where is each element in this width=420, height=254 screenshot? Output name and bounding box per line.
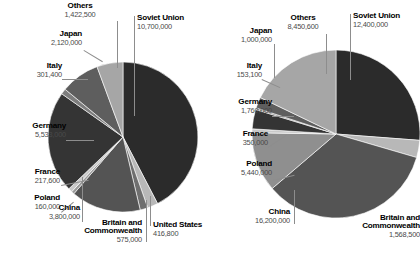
right-label-france: France 350,000 xyxy=(210,130,268,146)
right-label-japan-name: Japan xyxy=(210,27,272,35)
left-label-france-name: France xyxy=(4,168,60,176)
right-label-soviet-union: Soviet Union 12,400,000 xyxy=(353,12,400,28)
left-label-united-states: United States 416,800 xyxy=(153,221,202,237)
right-label-china: China 16,200,000 xyxy=(228,208,290,224)
right-label-britain: Britain and Commonwealth 1,568,500 xyxy=(342,214,420,239)
left-label-others-name: Others xyxy=(45,2,115,10)
right-pie-chart xyxy=(252,50,420,218)
right-pie-chart-panel: Others 8,450,600 Soviet Union 12,400,000… xyxy=(210,0,420,254)
left-label-britain: Britain and Commonwealth 575,000 xyxy=(78,219,142,244)
right-label-germany-name: Germany xyxy=(210,98,272,106)
left-leader-soviet-union xyxy=(134,16,135,116)
right-label-china-name: China xyxy=(228,208,290,216)
right-label-italy-value: 153,100 xyxy=(210,71,262,79)
right-label-others-value: 8,450,600 xyxy=(272,23,334,31)
left-label-united-states-name: United States xyxy=(153,221,202,229)
left-leader-britain xyxy=(146,200,147,242)
left-label-others-value: 1,422,500 xyxy=(45,11,115,19)
right-leader-germany xyxy=(272,116,294,117)
left-label-soviet-union-name: Soviet Union xyxy=(137,14,184,22)
left-leader-united-states xyxy=(150,196,151,226)
right-leader-japan xyxy=(274,44,275,78)
pie-slice-soviet-union xyxy=(336,50,420,140)
left-label-poland-name: Poland xyxy=(2,194,60,202)
right-label-japan: Japan 1,000,000 xyxy=(210,27,272,43)
right-label-china-value: 16,200,000 xyxy=(228,217,290,225)
right-label-france-name: France xyxy=(210,130,268,138)
left-pie-svg xyxy=(48,62,198,212)
right-label-poland: Poland 5,440,000 xyxy=(210,160,272,176)
left-leader-others xyxy=(117,21,118,68)
right-label-italy-name: Italy xyxy=(210,62,262,70)
left-label-china: China 3,800,000 xyxy=(18,204,80,220)
left-label-others: Others 1,422,500 xyxy=(45,2,115,18)
right-label-soviet-union-name: Soviet Union xyxy=(353,12,400,20)
right-label-germany-value: 1,760,000 xyxy=(210,107,272,115)
left-label-germany: Germany 5,533,000 xyxy=(0,122,66,138)
left-label-japan-name: Japan xyxy=(14,30,82,38)
right-label-britain-value: 1,568,500 xyxy=(342,231,420,239)
right-label-france-value: 350,000 xyxy=(210,139,268,147)
left-label-france: France 217,600 xyxy=(4,168,60,184)
left-leader-italy xyxy=(62,79,88,80)
left-label-italy-value: 301,400 xyxy=(2,71,62,79)
left-pie-chart xyxy=(48,62,198,212)
left-label-japan: Japan 2,120,000 xyxy=(14,30,82,46)
right-label-germany: Germany 1,760,000 xyxy=(210,98,272,114)
left-leader-japan xyxy=(83,50,102,62)
right-label-soviet-union-value: 12,400,000 xyxy=(353,21,400,29)
right-label-japan-value: 1,000,000 xyxy=(210,36,272,44)
right-leader-china xyxy=(294,190,295,224)
right-label-poland-value: 5,440,000 xyxy=(210,169,272,177)
right-pie-svg xyxy=(252,50,420,218)
left-label-france-value: 217,600 xyxy=(4,177,60,185)
left-leader-china xyxy=(82,177,83,222)
left-label-soviet-union: Soviet Union 10,700,000 xyxy=(137,14,184,30)
left-label-japan-value: 2,120,000 xyxy=(14,39,82,47)
right-label-others: Others 8,450,600 xyxy=(272,14,334,30)
left-label-china-value: 3,800,000 xyxy=(18,213,80,221)
right-label-others-name: Others xyxy=(272,14,334,22)
casualty-pie-charts-figure: Others 1,422,500 Soviet Union 10,700,000… xyxy=(0,0,420,254)
left-label-italy-name: Italy xyxy=(2,62,62,70)
left-label-britain-value: 575,000 xyxy=(78,236,142,244)
right-leader-others xyxy=(326,34,327,74)
left-pie-chart-panel: Others 1,422,500 Soviet Union 10,700,000… xyxy=(0,0,210,254)
right-leader-soviet-union xyxy=(350,14,351,80)
left-label-china-name: China xyxy=(18,204,80,212)
left-label-italy: Italy 301,400 xyxy=(2,62,62,78)
left-label-germany-value: 5,533,000 xyxy=(0,131,66,139)
left-label-germany-name: Germany xyxy=(0,122,66,130)
right-label-italy: Italy 153,100 xyxy=(210,62,262,78)
left-leader-germany xyxy=(66,140,94,141)
right-label-poland-name: Poland xyxy=(210,160,272,168)
left-label-united-states-value: 416,800 xyxy=(153,230,202,238)
left-label-soviet-union-value: 10,700,000 xyxy=(137,23,184,31)
